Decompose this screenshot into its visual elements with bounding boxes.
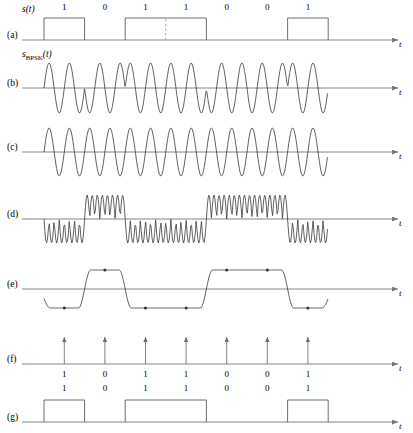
bit-label-a-4: 0 [224,2,229,12]
bit-label-f-2: 1 [143,369,148,379]
sample-dot-5 [266,269,269,272]
row-label-e: (e) [7,279,18,290]
waveform-row-d: (d)t [7,195,402,243]
waveform-row-g: (g)1011001t [7,383,402,431]
time-axis-label-g: t [399,421,402,431]
bit-label-g-1: 0 [103,383,108,393]
bit-label-f-6: 1 [306,369,311,379]
row-label-g: (g) [7,412,18,423]
bit-label-a-1: 0 [103,2,108,12]
pulse-train-a [44,18,328,40]
waveform-row-f: (f)1011001t [7,337,402,379]
bit-label-g-4: 0 [224,383,229,393]
waveform-row-a: (a)s(t)1011001t [7,2,402,49]
time-axis-label-a: t [399,39,402,49]
bit-label-a-2: 1 [143,2,148,12]
bit-label-g-5: 0 [265,383,270,393]
time-axis-label-b: t [399,87,402,97]
row-label-c: (c) [7,142,18,153]
bpsk-waveform-figure: (a)s(t)1011001t(b)sBPSK(t)t(c)t(d)t(e)t(… [0,0,413,433]
waveform-row-e: (e)t [7,269,402,310]
bit-label-g-2: 1 [143,383,148,393]
sample-dot-2 [144,307,147,310]
pulse-train-g [44,400,328,422]
figure-canvas: (a)s(t)1011001t(b)sBPSK(t)t(c)t(d)t(e)t(… [0,0,413,433]
time-axis-label-d: t [399,218,402,228]
bit-label-g-0: 1 [62,383,67,393]
bit-label-f-4: 0 [224,369,229,379]
time-axis-label-e: t [399,288,402,298]
signal-label-b: sBPSK(t) [22,49,52,61]
signal-label-a: s(t) [22,4,35,15]
sample-dot-6 [306,307,309,310]
bit-label-f-3: 1 [184,369,189,379]
bit-label-g-6: 1 [306,383,311,393]
row-label-b: (b) [7,78,18,89]
row-label-a: (a) [7,30,18,41]
sample-dot-1 [103,269,106,272]
waveform-row-c: (c)t [7,128,402,176]
sample-dot-4 [225,269,228,272]
bit-label-f-1: 0 [103,369,108,379]
time-axis-label-f: t [399,363,402,373]
bit-label-a-0: 1 [62,2,67,12]
bit-label-f-0: 1 [62,369,67,379]
row-label-f: (f) [7,354,17,365]
row-label-d: (d) [7,209,18,220]
bit-label-g-3: 1 [184,383,189,393]
sample-dot-0 [63,307,66,310]
waveform-row-b: (b)sBPSK(t)t [7,49,402,113]
time-axis-label-c: t [399,151,402,161]
bit-label-a-6: 1 [306,2,311,12]
bit-label-f-5: 0 [265,369,270,379]
bit-label-a-5: 0 [265,2,270,12]
signal-label-tail: (t) [43,49,52,60]
bit-label-a-3: 1 [184,2,189,12]
sample-dot-3 [185,307,188,310]
signal-label-subscript: BPSK [26,54,43,61]
